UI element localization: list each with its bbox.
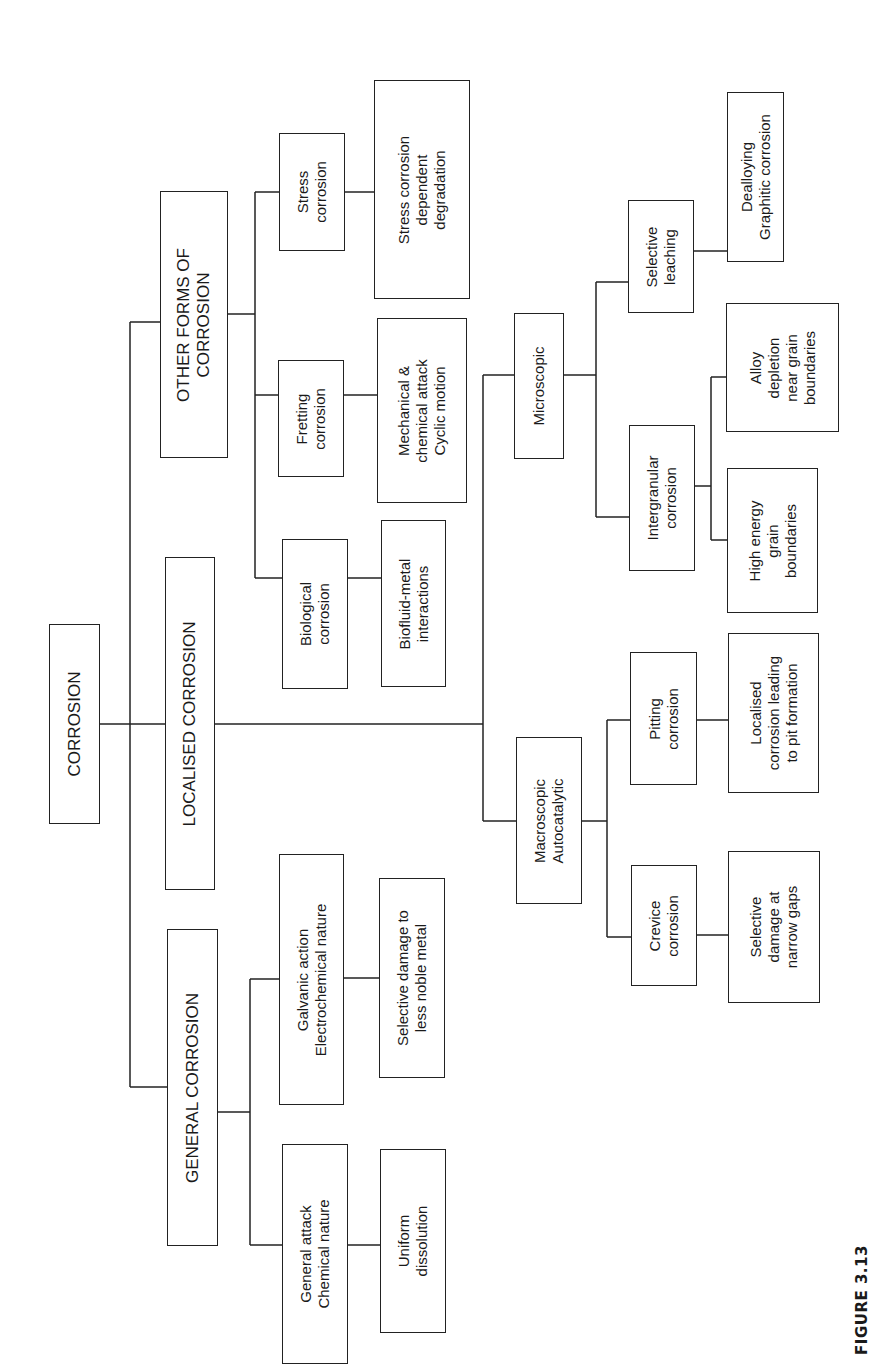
node-fretting: Fretting corrosion [278, 360, 344, 477]
node-label: Fretting corrosion [293, 388, 329, 450]
node-label: Alloy depletion near grain boundaries [747, 330, 819, 404]
node-label: Crevice corrosion [646, 895, 682, 957]
node-label: Stress corrosion [294, 161, 330, 223]
figure-caption: FIGURE 3.13 [853, 1245, 871, 1355]
node-label: Macroscopic Autocatalytic [531, 778, 567, 863]
node-microscopic: Microscopic [514, 313, 564, 459]
node-general-attack: General attack Chemical nature [282, 1144, 348, 1364]
node-label: GENERAL CORROSION [182, 992, 202, 1182]
node-label: Pitting corrosion [646, 688, 682, 750]
node-other-forms: OTHER FORMS OF CORROSION [160, 191, 228, 458]
node-biological-desc: Biofluid-metal interactions [381, 520, 446, 687]
node-alloy-depletion-desc: Alloy depletion near grain boundaries [726, 303, 839, 432]
node-galvanic: Galvanic action Electrochemical nature [279, 854, 344, 1105]
node-label: Intergranular corrosion [644, 455, 680, 540]
node-crevice: Crevice corrosion [631, 865, 697, 986]
node-label: Biofluid-metal interactions [396, 558, 432, 649]
node-label: LOCALISED CORROSION [180, 621, 200, 826]
node-intergranular: Intergranular corrosion [629, 425, 695, 571]
node-uniform-desc: Uniform dissolution [380, 1149, 446, 1333]
node-selective-leaching: Selective leaching [628, 200, 694, 313]
node-label: Selective damage to less noble metal [394, 910, 430, 1046]
node-label: OTHER FORMS OF CORROSION [174, 248, 215, 402]
node-crevice-desc: Selective damage at narrow gaps [728, 851, 820, 1003]
node-high-energy-desc: High energy grain boundaries [727, 468, 818, 613]
node-macroscopic: Macroscopic Autocatalytic [516, 737, 582, 904]
corrosion-classification-diagram: CORROSIONOTHER FORMS OF CORROSIONLOCALIS… [0, 0, 894, 1372]
node-localised: LOCALISED CORROSION [165, 557, 215, 890]
node-pitting: Pitting corrosion [630, 652, 697, 785]
node-fretting-desc: Mechanical & chemical attack Cyclic moti… [377, 318, 467, 503]
node-label: Selective leaching [643, 226, 679, 287]
node-label: CORROSION [64, 672, 84, 777]
node-label: Biological corrosion [297, 582, 333, 646]
node-stress: Stress corrosion [279, 133, 345, 251]
node-label: High energy grain boundaries [746, 500, 800, 581]
node-pitting-desc: Localised corrosion leading to pit forma… [728, 633, 819, 793]
node-label: Microscopic [530, 346, 548, 425]
node-dealloying-desc: Dealloying Graphitic corrosion [727, 92, 784, 262]
node-biological: Biological corrosion [282, 539, 348, 689]
node-label: General attack Chemical nature [297, 1199, 333, 1308]
node-label: Galvanic action Electrochemical nature [294, 903, 330, 1056]
node-stress-desc: Stress corrosion dependent degradation [374, 80, 470, 299]
node-label: Mechanical & chemical attack Cyclic moti… [395, 359, 449, 462]
node-label: Localised corrosion leading to pit forma… [747, 656, 801, 770]
node-label: Uniform dissolution [395, 1206, 431, 1277]
node-galvanic-desc: Selective damage to less noble metal [379, 878, 445, 1078]
node-label: Selective damage at narrow gaps [747, 886, 801, 969]
node-label: Dealloying Graphitic corrosion [738, 114, 774, 240]
node-corrosion: CORROSION [49, 624, 100, 824]
node-label: Stress corrosion dependent degradation [395, 135, 449, 243]
node-general: GENERAL CORROSION [167, 929, 218, 1246]
